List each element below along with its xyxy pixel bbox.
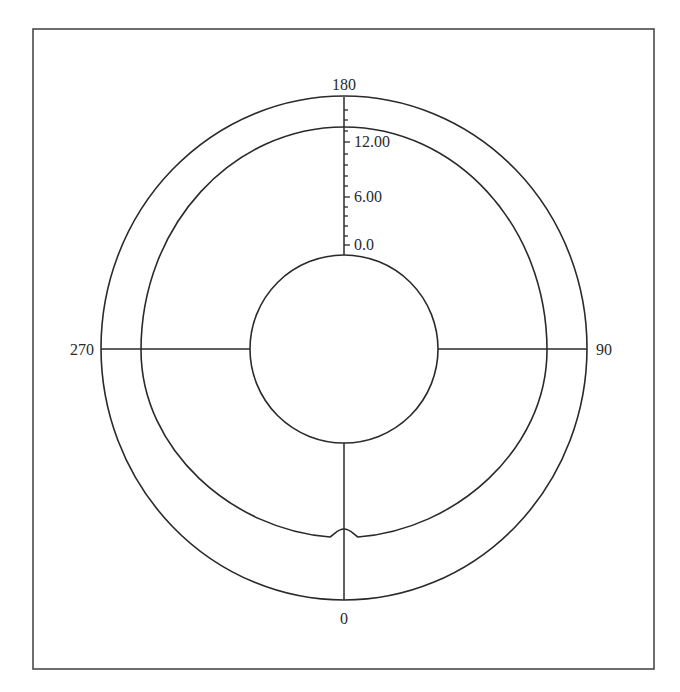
tick-label-6: 6.00	[354, 188, 382, 205]
tick-label-0: 0.0	[354, 236, 374, 253]
radial-ticks	[344, 110, 350, 245]
inner-circle	[250, 255, 438, 443]
angle-label-270: 270	[70, 341, 94, 358]
angle-label-180: 180	[332, 76, 356, 93]
polar-chart: 0.0 6.00 12.00 180 0 270 90	[0, 0, 680, 692]
angle-label-90: 90	[596, 341, 612, 358]
tick-label-12: 12.00	[354, 133, 390, 150]
angle-label-0: 0	[340, 610, 348, 627]
